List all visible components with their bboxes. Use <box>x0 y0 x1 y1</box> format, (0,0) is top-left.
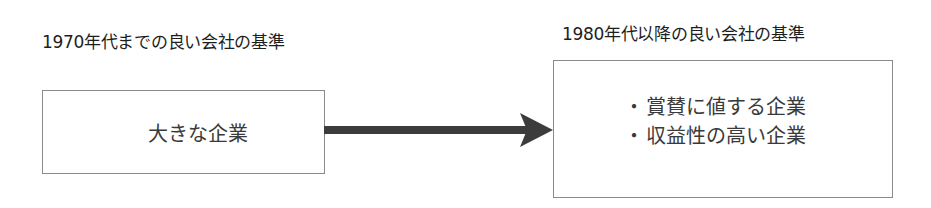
bullet-icon: ・ <box>624 122 646 151</box>
criteria-admirable-company: 賞賛に値する企業 <box>646 95 806 119</box>
list-item: ・収益性の高い企業 <box>624 122 806 151</box>
list-item: ・賞賛に値する企業 <box>624 93 806 122</box>
bullet-icon: ・ <box>624 93 646 122</box>
criteria-list: ・賞賛に値する企業 ・収益性の高い企業 <box>624 93 806 151</box>
criteria-profitable-company: 収益性の高い企業 <box>646 124 806 148</box>
box-1980s-criteria: ・賞賛に値する企業 ・収益性の高い企業 <box>553 60 893 198</box>
title-1980s-criteria: 1980年代以降の良い会社の基準 <box>562 20 804 45</box>
arrow-right-icon <box>324 110 554 150</box>
criteria-large-company: 大きな企業 <box>120 118 248 147</box>
box-1970s-criteria: 大きな企業 <box>42 90 325 174</box>
title-1970s-criteria: 1970年代までの良い会社の基準 <box>42 28 284 53</box>
